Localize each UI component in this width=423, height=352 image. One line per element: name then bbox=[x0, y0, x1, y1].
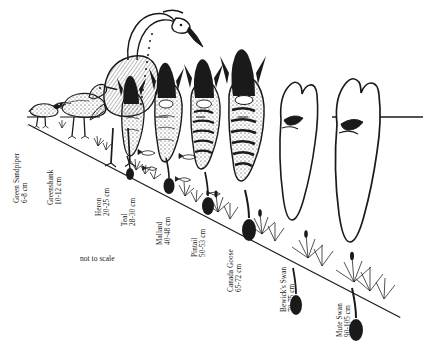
label-greenshank: Greenshank 10-12 cm bbox=[48, 170, 64, 205]
label-canada-goose: Canada Goose 65-72 cm bbox=[228, 249, 244, 292]
label-pintail: Pintail 50-53 cm bbox=[192, 229, 208, 257]
scale-note: not to scale bbox=[80, 254, 115, 263]
label-size: 20-25 cm bbox=[104, 188, 112, 216]
label-green-sandpiper: Green Sandpiper 6-8 cm bbox=[14, 153, 30, 203]
label-mallard: Mallard 40-48 cm bbox=[157, 217, 173, 245]
label-teal: Teal 28-30 cm bbox=[122, 198, 138, 226]
label-size: 40-48 cm bbox=[165, 217, 173, 245]
label-size: 70-75 cm bbox=[289, 267, 297, 312]
label-bewicks-swan: Bewick's Swan 70-75 cm bbox=[281, 267, 297, 312]
label-heron: Heron 20-25 cm bbox=[96, 188, 112, 216]
label-size: 6-8 cm bbox=[22, 153, 30, 203]
label-size: 10-12 cm bbox=[56, 170, 64, 205]
label-size: 65-72 cm bbox=[236, 249, 244, 292]
label-size: 50-53 cm bbox=[200, 229, 208, 257]
label-size: 28-30 cm bbox=[130, 198, 138, 226]
label-size: 90-105 cm bbox=[345, 303, 353, 337]
label-mute-swan: Mute Swan 90-105 cm bbox=[337, 303, 353, 337]
